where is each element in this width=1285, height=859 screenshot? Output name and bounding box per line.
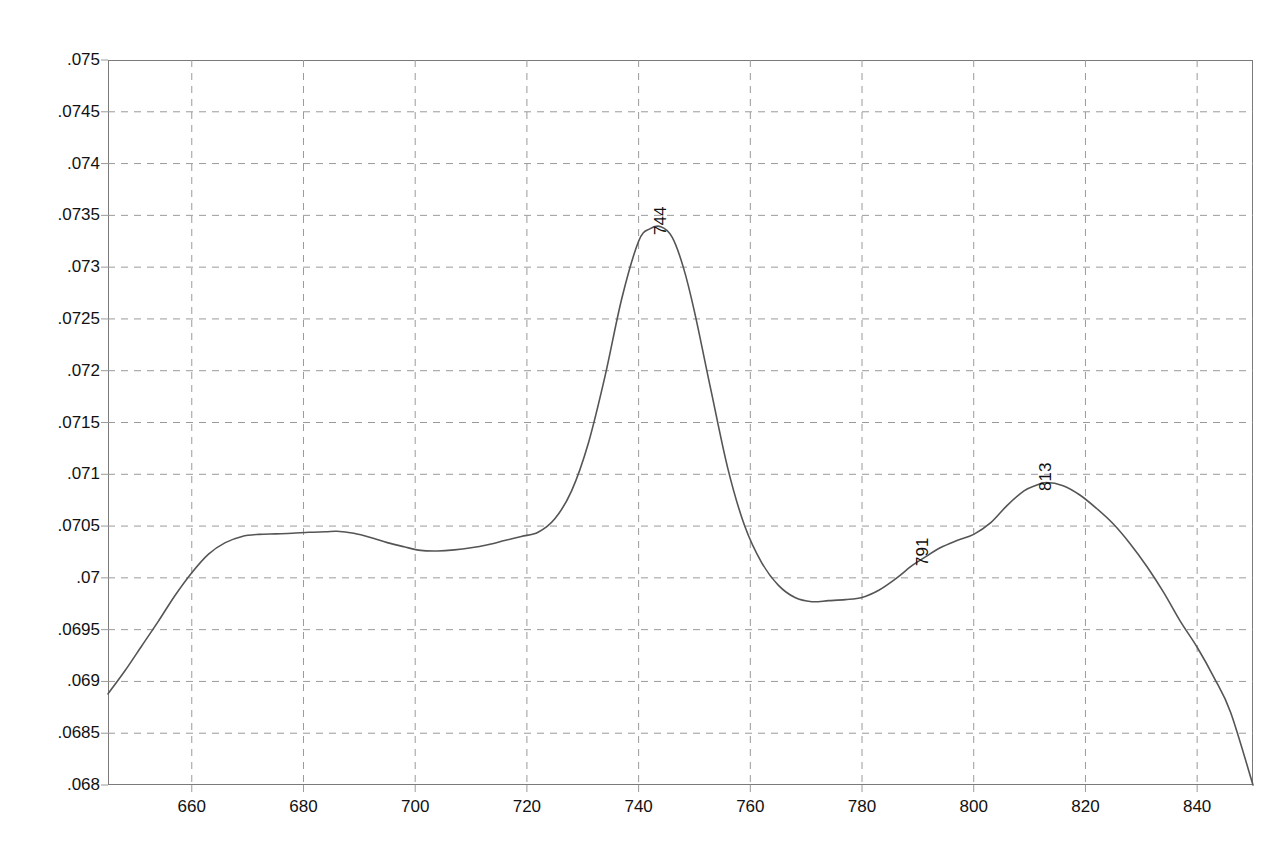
peak-label-813: 813 — [1036, 462, 1056, 490]
x-axis-tick-label: 800 — [960, 798, 988, 815]
x-axis-tick-label: 840 — [1183, 798, 1211, 815]
x-axis-labels: 660680700720740760780800820840 — [0, 0, 1285, 859]
x-axis-tick-label: 700 — [401, 798, 429, 815]
x-axis-tick-label: 660 — [178, 798, 206, 815]
x-axis-tick-label: 720 — [513, 798, 541, 815]
x-axis-tick-label: 780 — [848, 798, 876, 815]
chart-root: .068.0685.069.0695.07.0705.071.0715.072.… — [0, 0, 1285, 859]
x-axis-tick-label: 760 — [736, 798, 764, 815]
x-axis-tick-label: 740 — [624, 798, 652, 815]
peak-label-791: 791 — [913, 538, 933, 566]
x-axis-tick-label: 820 — [1071, 798, 1099, 815]
x-axis-tick-label: 680 — [289, 798, 317, 815]
peak-label-744: 744 — [651, 206, 671, 234]
